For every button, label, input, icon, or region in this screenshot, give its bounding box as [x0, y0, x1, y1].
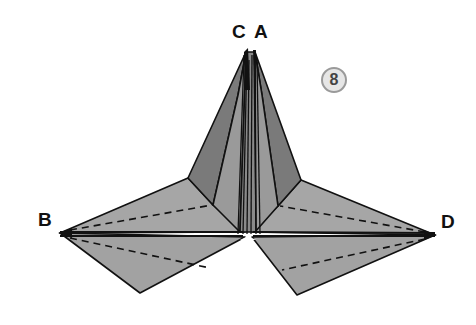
label-d: D [441, 212, 455, 231]
step-number-badge: 8 [321, 67, 347, 93]
label-c: C [232, 22, 246, 41]
right-wing-lower-flap [252, 235, 435, 295]
step-number: 8 [330, 71, 339, 89]
d-tip [424, 230, 437, 240]
label-b: B [38, 210, 52, 229]
origami-figure [0, 0, 476, 325]
label-a: A [254, 22, 268, 41]
origami-diagram: C A B D 8 [0, 0, 476, 325]
